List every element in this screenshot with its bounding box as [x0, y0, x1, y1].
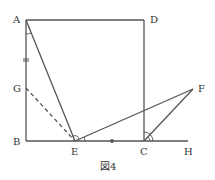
- segment-ge: [26, 88, 75, 141]
- label-f: F: [198, 83, 205, 94]
- figure-caption: 図4: [100, 161, 116, 172]
- label-a: A: [12, 14, 21, 25]
- label-g: G: [13, 83, 21, 94]
- angle-mark-a: [26, 33, 31, 34]
- segment-ef: [75, 89, 193, 141]
- label-h: H: [184, 146, 193, 157]
- label-b: B: [13, 136, 20, 147]
- equal-mark-ec: [111, 140, 114, 143]
- segment-ae: [26, 20, 75, 141]
- geometry-figure: A D G B E C H F 図4: [0, 0, 215, 180]
- segment-cf: [144, 89, 193, 141]
- label-c: C: [140, 146, 148, 157]
- label-d: D: [150, 14, 158, 25]
- label-e: E: [71, 146, 78, 157]
